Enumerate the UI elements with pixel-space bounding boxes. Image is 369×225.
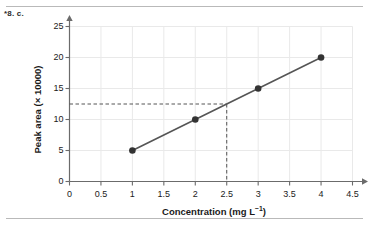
x-tick-label: 0.5 (86, 190, 116, 199)
tick-marks (66, 27, 353, 186)
x-tick-label: 4 (306, 190, 336, 199)
data-point-marker (318, 54, 325, 61)
x-tick-label: 0 (55, 190, 85, 199)
axes (66, 15, 368, 185)
x-tick-label: 4.5 (338, 190, 368, 199)
x-tick-label: 2 (180, 190, 210, 199)
data-point-marker (129, 147, 136, 154)
x-tick-label: 3 (243, 190, 273, 199)
y-tick-label: 0 (42, 177, 64, 186)
data-point-marker (255, 85, 262, 92)
x-tick-label: 1.5 (149, 190, 179, 199)
y-tick-label: 10 (42, 115, 64, 124)
y-tick-label: 5 (42, 146, 64, 155)
y-axis-arrow-icon (66, 15, 72, 21)
y-tick-label: 15 (42, 84, 64, 93)
x-tick-label: 1 (117, 190, 147, 199)
x-tick-label: 3.5 (275, 190, 305, 199)
x-axis-arrow-icon (362, 178, 368, 184)
figure-container: *8. c. Peak area (× 10000) Concentration… (0, 0, 369, 225)
x-tick-label: 2.5 (212, 190, 242, 199)
data-point-marker (192, 116, 199, 123)
y-tick-label: 20 (42, 53, 64, 62)
y-tick-label: 25 (42, 22, 64, 31)
